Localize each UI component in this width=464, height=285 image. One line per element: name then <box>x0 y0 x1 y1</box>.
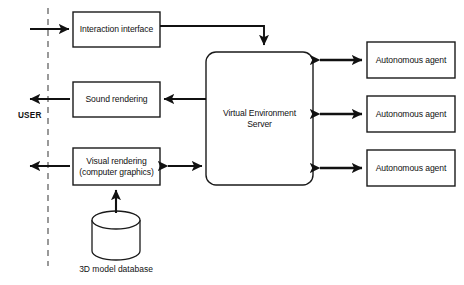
autonomous-agent-box-2 <box>367 96 455 132</box>
interaction-interface-box <box>73 12 160 47</box>
virtual-environment-server-box <box>206 52 313 185</box>
user-label: USER <box>18 111 42 120</box>
diagram-canvas: Interaction interface Sound rendering Vi… <box>0 0 464 285</box>
arrow-interaction-to-server <box>160 26 264 45</box>
autonomous-agent-box-3 <box>367 150 455 186</box>
database-label: 3D model database <box>56 264 176 274</box>
diagram-graphics <box>0 0 464 285</box>
sound-rendering-box <box>73 82 160 117</box>
autonomous-agent-box-1 <box>367 42 455 78</box>
visual-rendering-box <box>73 148 160 185</box>
database-cylinder <box>92 211 140 260</box>
